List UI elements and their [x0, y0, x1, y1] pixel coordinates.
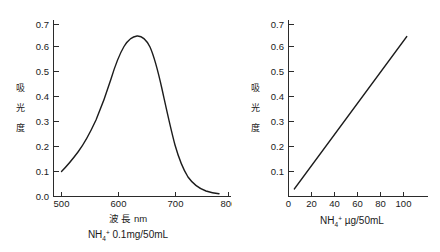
x-tick-label: 500	[54, 198, 70, 209]
calibration-line	[294, 37, 407, 190]
y-axis-title-char: 光	[251, 102, 260, 113]
chart-panel-calibration: 0.1 0.2 0.3 0.4 0.5 0.6 0.7 0 20	[232, 0, 440, 252]
y-tick-label: 0.3	[271, 116, 284, 127]
calibration-x-ticks	[289, 192, 404, 197]
calibration-svg: 0.1 0.2 0.3 0.4 0.5 0.6 0.7 0 20	[232, 0, 440, 252]
y-tick-label: 0.2	[36, 141, 49, 152]
x-tick-label: 0	[286, 198, 291, 209]
caption-sub-subscript: 4	[102, 235, 106, 242]
spectrum-y-tick-labels: 0.0 0.1 0.2 0.3 0.4 0.5 0.6 0.7	[36, 19, 49, 202]
x-tick-label: 100	[396, 198, 412, 209]
spectrum-svg: 0.0 0.1 0.2 0.3 0.4 0.5 0.6 0.7 500 600	[0, 0, 232, 252]
x-tick-label: 60	[352, 198, 363, 209]
caption-sub-prefix: NH	[88, 229, 102, 240]
spectrum-caption-sub: NH4+ 0.1mg/50mL	[88, 229, 169, 242]
spectrum-y-ticks	[54, 25, 59, 197]
y-tick-label: 0.3	[36, 116, 49, 127]
y-tick-label: 0.1	[36, 166, 49, 177]
y-axis-title-char: 度	[251, 122, 260, 133]
spectrum-caption-main: 波 長 nm	[109, 213, 148, 224]
figure-root: 0.0 0.1 0.2 0.3 0.4 0.5 0.6 0.7 500 600	[0, 0, 440, 252]
x-tick-label: 800	[221, 198, 232, 209]
y-axis-title-char: 光	[16, 102, 25, 113]
calibration-y-tick-labels: 0.1 0.2 0.3 0.4 0.5 0.6 0.7	[271, 19, 284, 177]
y-tick-label: 0.5	[271, 66, 284, 77]
chart-panel-spectrum: 0.0 0.1 0.2 0.3 0.4 0.5 0.6 0.7 500 600	[0, 0, 232, 252]
y-axis-title-char: 吸	[251, 83, 260, 93]
spectrum-x-ticks	[62, 192, 229, 197]
x-tick-label: 20	[306, 198, 317, 209]
caption-prefix: NH	[320, 215, 334, 226]
y-tick-label: 0.7	[36, 19, 49, 30]
spectrum-x-tick-labels: 500 600 700 800	[54, 198, 232, 209]
calibration-y-axis-title: 吸 光 度	[251, 83, 260, 133]
y-tick-label: 0.6	[271, 41, 284, 52]
y-axis-title-char: 吸	[16, 83, 25, 93]
y-tick-label: 0.0	[36, 191, 49, 202]
y-tick-label: 0.6	[36, 41, 49, 52]
x-tick-label: 40	[329, 198, 340, 209]
caption-rest: µg/50mL	[342, 215, 384, 226]
x-tick-label: 600	[111, 198, 127, 209]
y-axis-title-char: 度	[16, 122, 25, 133]
y-tick-label: 0.4	[36, 91, 49, 102]
y-tick-label: 0.1	[271, 166, 284, 177]
calibration-y-ticks	[289, 25, 294, 172]
calibration-x-tick-labels: 0 20 40 60 80 100	[286, 198, 412, 209]
spectrum-curve	[62, 36, 220, 194]
y-tick-label: 0.5	[36, 66, 49, 77]
y-tick-label: 0.7	[271, 19, 284, 30]
spectrum-y-axis-title: 吸 光 度	[16, 83, 25, 133]
x-tick-label: 700	[168, 198, 184, 209]
y-tick-label: 0.2	[271, 141, 284, 152]
x-tick-label: 80	[375, 198, 386, 209]
caption-sub-rest: 0.1mg/50mL	[110, 229, 169, 240]
caption-subscript: 4	[335, 221, 339, 228]
calibration-caption: NH4+ µg/50mL	[320, 215, 384, 228]
y-tick-label: 0.4	[271, 91, 284, 102]
